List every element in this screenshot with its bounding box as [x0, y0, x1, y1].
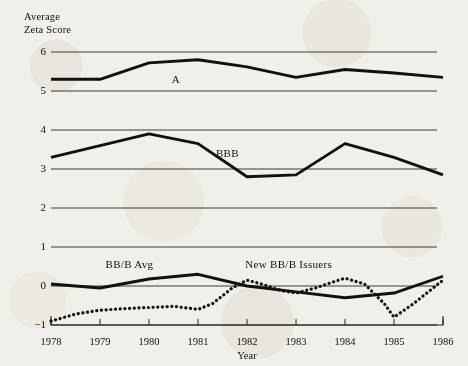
y-tick-label-1: 1 — [22, 240, 46, 252]
plot-canvas — [0, 0, 468, 366]
axis-frame — [51, 316, 443, 325]
y-tick-label-4: 4 — [22, 123, 46, 135]
x-tick-label-1983: 1983 — [286, 336, 307, 347]
y-tick-label--1: −1 — [22, 318, 46, 330]
x-tick-label-1981: 1981 — [188, 336, 209, 347]
x-tick-label-1986: 1986 — [433, 336, 454, 347]
x-axis-title: Year — [237, 350, 256, 361]
x-tick-label-1984: 1984 — [335, 336, 356, 347]
x-tick-label-1982: 1982 — [237, 336, 258, 347]
series-annotation-bb-b-avg: BB/B Avg — [106, 258, 154, 270]
series-annotation-new-bb-b-issuers: New BB/B Issuers — [245, 258, 332, 270]
series-paths-group — [51, 60, 443, 321]
y-tick-label-0: 0 — [22, 279, 46, 291]
x-tick-label-1979: 1979 — [90, 336, 111, 347]
y-tick-label-6: 6 — [22, 45, 46, 57]
series-annotation-a: A — [172, 73, 180, 85]
x-tick-label-1980: 1980 — [139, 336, 160, 347]
series-line-a — [51, 60, 443, 80]
y-tick-label-2: 2 — [22, 201, 46, 213]
series-line-bbb — [51, 134, 443, 177]
zeta-score-line-chart: Average Zeta Score −10123456 19781979198… — [0, 0, 468, 366]
y-tick-label-5: 5 — [22, 84, 46, 96]
x-tick-label-1978: 1978 — [41, 336, 62, 347]
x-tick-label-1985: 1985 — [384, 336, 405, 347]
series-annotation-bbb: BBB — [216, 147, 239, 159]
y-tick-label-3: 3 — [22, 162, 46, 174]
